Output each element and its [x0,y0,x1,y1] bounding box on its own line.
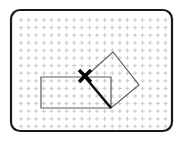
geometry-figure-svg [0,0,184,141]
figure-canvas [0,0,184,141]
